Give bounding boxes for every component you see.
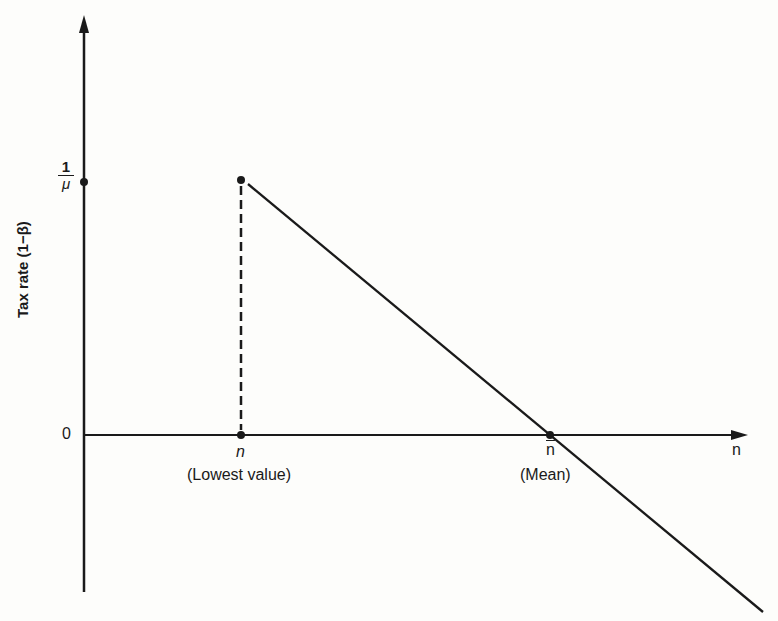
lowest-value-symbol: n xyxy=(236,443,245,461)
x-axis-arrow-icon xyxy=(731,430,748,440)
mean-dot xyxy=(546,431,554,439)
y-axis-label: Tax rate (1−β) xyxy=(14,221,31,318)
y-tick-one-over-mu: 1 μ xyxy=(58,159,74,191)
diagram-canvas xyxy=(0,0,778,621)
tax-rate-line xyxy=(248,184,763,612)
lowest-value-dot xyxy=(237,431,245,439)
y-tick-denominator: μ xyxy=(58,176,74,191)
y-tick-numerator: 1 xyxy=(58,159,74,176)
y-tick-dot-one-over-mu xyxy=(80,178,88,186)
lowest-value-caption: (Lowest value) xyxy=(187,466,291,484)
mean-caption: (Mean) xyxy=(520,466,571,484)
mean-symbol: n xyxy=(546,441,555,459)
peak-point-dot xyxy=(237,176,245,184)
x-axis-label: n xyxy=(732,441,741,459)
y-axis-arrow-icon xyxy=(79,15,89,33)
y-tick-zero: 0 xyxy=(62,425,71,443)
